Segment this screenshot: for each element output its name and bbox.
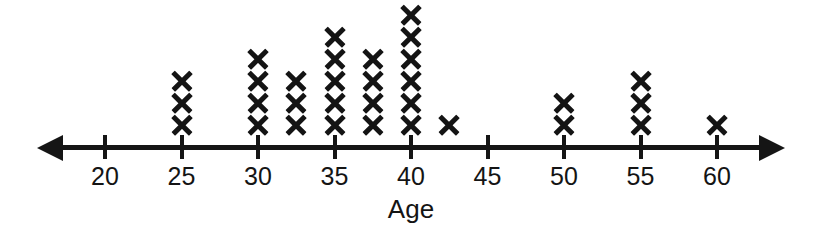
x-mark-stroke bbox=[324, 93, 345, 114]
x-mark-stroke bbox=[554, 115, 575, 136]
x-mark-stroke bbox=[630, 115, 651, 136]
x-mark-stroke bbox=[362, 93, 383, 114]
x-mark-stroke bbox=[362, 71, 383, 92]
x-mark-stroke bbox=[286, 115, 307, 136]
x-mark-stroke bbox=[401, 115, 422, 136]
axis-tick-40 bbox=[409, 135, 413, 159]
x-mark-stroke bbox=[324, 49, 345, 70]
x-mark-stroke bbox=[248, 93, 269, 114]
x-mark-stroke bbox=[439, 115, 460, 136]
x-mark-stroke bbox=[324, 93, 345, 114]
x-mark-stroke bbox=[324, 71, 345, 92]
x-mark bbox=[361, 113, 385, 137]
x-mark bbox=[323, 113, 347, 137]
axis-tick-45 bbox=[486, 135, 490, 159]
x-mark-stroke bbox=[401, 27, 422, 48]
x-mark-stroke bbox=[362, 49, 383, 70]
axis-tick-60 bbox=[715, 135, 719, 159]
axis-tick-label-50: 50 bbox=[550, 164, 578, 189]
x-mark-stroke bbox=[324, 49, 345, 70]
x-mark-stroke bbox=[401, 49, 422, 70]
x-mark-stroke bbox=[324, 27, 345, 48]
x-mark-stroke bbox=[248, 93, 269, 114]
x-mark-stroke bbox=[286, 115, 307, 136]
x-mark bbox=[361, 69, 385, 93]
x-mark-stroke bbox=[171, 115, 192, 136]
x-mark-stroke bbox=[248, 71, 269, 92]
x-mark-stroke bbox=[401, 115, 422, 136]
x-mark-stroke bbox=[630, 71, 651, 92]
x-mark bbox=[170, 91, 194, 115]
x-mark-stroke bbox=[324, 71, 345, 92]
x-mark-stroke bbox=[630, 115, 651, 136]
x-mark bbox=[323, 47, 347, 71]
x-mark-stroke bbox=[401, 5, 422, 26]
right-arrowhead-icon bbox=[759, 135, 785, 161]
x-mark-stroke bbox=[324, 115, 345, 136]
x-mark bbox=[629, 113, 653, 137]
x-mark bbox=[323, 91, 347, 115]
x-mark bbox=[629, 91, 653, 115]
left-arrowhead-icon bbox=[37, 135, 63, 161]
x-mark-stroke bbox=[286, 71, 307, 92]
x-mark-stroke bbox=[171, 93, 192, 114]
x-mark-stroke bbox=[401, 93, 422, 114]
axis-tick-label-35: 35 bbox=[321, 164, 349, 189]
x-mark-stroke bbox=[554, 115, 575, 136]
axis-tick-20 bbox=[103, 135, 107, 159]
x-mark-stroke bbox=[248, 49, 269, 70]
x-mark bbox=[361, 47, 385, 71]
x-mark-stroke bbox=[630, 93, 651, 114]
x-mark-stroke bbox=[286, 71, 307, 92]
x-mark-stroke bbox=[554, 93, 575, 114]
axis-tick-35 bbox=[333, 135, 337, 159]
x-mark-stroke bbox=[401, 5, 422, 26]
x-mark bbox=[284, 113, 308, 137]
x-mark-stroke bbox=[401, 93, 422, 114]
x-mark-stroke bbox=[362, 71, 383, 92]
x-mark bbox=[323, 69, 347, 93]
x-mark-stroke bbox=[248, 115, 269, 136]
axis-tick-55 bbox=[639, 135, 643, 159]
x-mark bbox=[437, 113, 461, 137]
x-mark bbox=[170, 113, 194, 137]
x-mark-stroke bbox=[401, 49, 422, 70]
axis-tick-label-45: 45 bbox=[474, 164, 502, 189]
x-mark-stroke bbox=[286, 93, 307, 114]
x-mark bbox=[246, 69, 270, 93]
x-mark-stroke bbox=[248, 115, 269, 136]
x-mark-stroke bbox=[630, 71, 651, 92]
x-mark bbox=[323, 25, 347, 49]
x-mark-stroke bbox=[171, 71, 192, 92]
x-mark-stroke bbox=[324, 27, 345, 48]
x-mark-stroke bbox=[171, 71, 192, 92]
x-mark-stroke bbox=[286, 93, 307, 114]
x-mark bbox=[246, 113, 270, 137]
x-mark bbox=[284, 69, 308, 93]
x-mark bbox=[246, 47, 270, 71]
x-mark-stroke bbox=[401, 27, 422, 48]
x-mark bbox=[705, 113, 729, 137]
x-mark-stroke bbox=[401, 71, 422, 92]
x-mark bbox=[284, 91, 308, 115]
x-mark-stroke bbox=[707, 115, 728, 136]
axis-tick-30 bbox=[256, 135, 260, 159]
x-mark-stroke bbox=[324, 115, 345, 136]
axis-tick-label-40: 40 bbox=[397, 164, 425, 189]
x-mark bbox=[170, 69, 194, 93]
x-mark bbox=[629, 69, 653, 93]
x-mark-stroke bbox=[362, 93, 383, 114]
axis-tick-50 bbox=[562, 135, 566, 159]
x-mark-stroke bbox=[707, 115, 728, 136]
x-mark-stroke bbox=[362, 115, 383, 136]
x-mark-stroke bbox=[248, 71, 269, 92]
x-mark-stroke bbox=[554, 93, 575, 114]
axis-tick-label-55: 55 bbox=[627, 164, 655, 189]
x-axis-title: Age bbox=[388, 196, 434, 222]
x-mark bbox=[552, 113, 576, 137]
x-mark bbox=[552, 91, 576, 115]
x-mark-stroke bbox=[362, 49, 383, 70]
x-mark bbox=[399, 47, 423, 71]
axis-tick-label-25: 25 bbox=[168, 164, 196, 189]
axis-tick-label-30: 30 bbox=[244, 164, 272, 189]
